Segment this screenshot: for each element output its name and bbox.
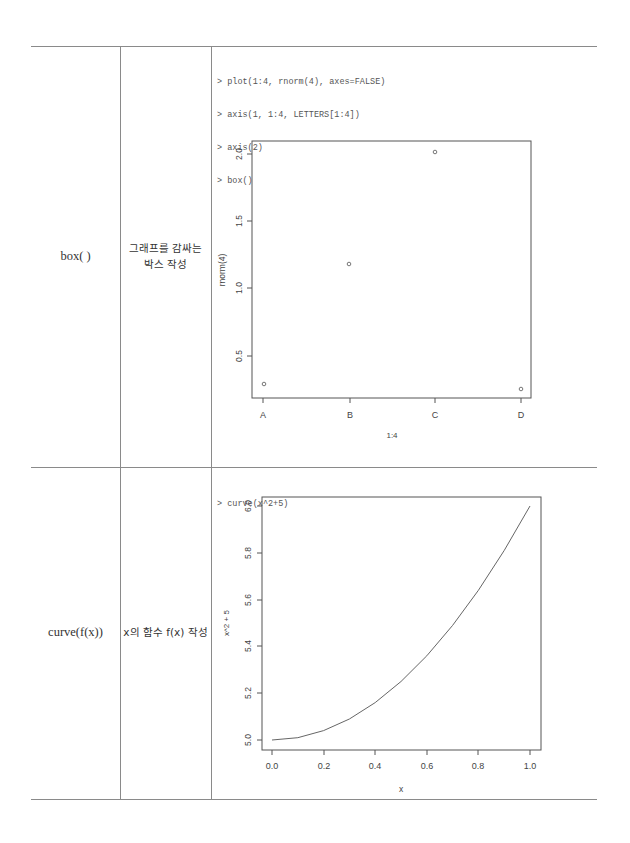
code-line: > plot(1:4, rnorm(4), axes=FALSE)	[217, 77, 385, 88]
function-name: box( )	[31, 248, 120, 264]
x-tick-label: A	[260, 410, 266, 420]
curve-plot: 5.0 5.2 5.4 5.6 5.8 6.0 x^2 + 5 0.0 0.2 …	[211, 488, 597, 798]
y-tick-label: 5.8	[243, 547, 253, 559]
plot-box-frame	[262, 497, 541, 750]
x-tick-label: 0.8	[472, 761, 485, 771]
row-divider	[31, 467, 597, 468]
y-tick-label: 5.6	[243, 594, 253, 606]
data-points	[262, 150, 523, 391]
y-tick-label: 0.5	[234, 350, 244, 362]
x-tick-label: C	[432, 410, 439, 420]
x-axis-label: 1:4	[386, 431, 398, 440]
data-point	[347, 262, 351, 266]
table-bottom-border	[31, 799, 597, 800]
x-axis	[272, 750, 530, 755]
function-description: 그래프를 감싸는 박스 작성	[120, 240, 211, 272]
y-tick-label: 5.4	[243, 640, 253, 652]
y-tick-label: 1.5	[234, 215, 244, 227]
data-point	[433, 150, 437, 154]
scatter-plot-box: 2.0 1.5 1.0 0.5 rnorm(4) A B C D 1:4	[211, 120, 597, 460]
y-axis-label: x^2 + 5	[222, 610, 231, 636]
x-tick-label: 0.4	[369, 761, 382, 771]
x-tick-label: 1.0	[524, 761, 537, 771]
y-axis	[247, 154, 252, 356]
x-axis-label: x	[399, 784, 404, 794]
x-tick-label: 0.2	[318, 761, 331, 771]
description-line: 그래프를 감싸는	[120, 240, 211, 256]
y-tick-label: 1.0	[234, 282, 244, 294]
x-tick-label: 0.6	[421, 761, 434, 771]
table-top-border	[31, 46, 597, 47]
function-description: x의 함수 f(x) 작성	[120, 624, 211, 640]
y-tick-label: 6.0	[243, 500, 253, 512]
data-point	[519, 387, 523, 391]
curve-line	[272, 506, 530, 740]
x-tick-label: D	[518, 410, 525, 420]
y-tick-label: 5.0	[243, 734, 253, 746]
x-tick-label: 0.0	[266, 761, 279, 771]
function-name: curve(f(x))	[31, 624, 120, 640]
data-point	[262, 382, 266, 386]
y-axis-label: rnorm(4)	[217, 254, 227, 287]
description-line: 박스 작성	[120, 256, 211, 272]
y-tick-label: 5.2	[243, 687, 253, 699]
x-tick-label: B	[347, 410, 353, 420]
y-axis	[257, 506, 262, 740]
column-divider-1	[120, 46, 121, 799]
x-axis	[263, 398, 521, 403]
plot-box-frame	[252, 141, 531, 398]
y-tick-label: 2.0	[234, 148, 244, 160]
